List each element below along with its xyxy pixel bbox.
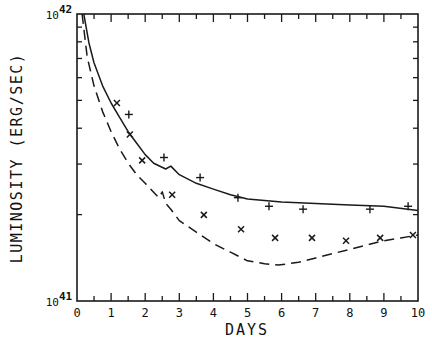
cross-marker — [377, 235, 383, 241]
cross-marker — [343, 238, 349, 244]
y-tick-label-exponent: 41 — [59, 290, 73, 303]
x-tick-label: 8 — [346, 306, 353, 320]
y-tick-label-base: 10 — [46, 9, 59, 22]
solid-model-curve — [84, 14, 418, 211]
x-tick-label: 7 — [312, 306, 319, 320]
model-curves — [82, 14, 418, 265]
cross-marker — [127, 132, 133, 138]
y-tick-label-exponent: 42 — [59, 3, 72, 16]
plus-marker — [265, 202, 273, 210]
x-tick-labels: 012345678910 — [73, 306, 425, 320]
dashed-model-curve — [82, 14, 418, 265]
x-tick-label: 5 — [244, 306, 251, 320]
cross-marker — [272, 235, 278, 241]
cross-marker — [114, 100, 120, 106]
cross-marker — [309, 235, 315, 241]
y-tick-labels: 10411042 — [46, 3, 73, 309]
plus-marker — [125, 110, 133, 118]
axis-ticks — [77, 14, 418, 301]
cross-marker — [238, 226, 244, 232]
y-tick-label-base: 10 — [46, 296, 59, 309]
luminosity-chart: 012345678910 10411042 DAYS LUMINOSITY (E… — [0, 0, 432, 342]
plus-marker — [196, 174, 204, 182]
cross-marker — [139, 157, 145, 163]
x-tick-label: 0 — [73, 306, 80, 320]
y-axis-label: LUMINOSITY (ERG/SEC) — [8, 53, 26, 264]
x-tick-label: 9 — [380, 306, 387, 320]
plus-marker — [234, 194, 242, 202]
x-tick-label: 1 — [107, 306, 114, 320]
x-tick-label: 3 — [176, 306, 183, 320]
cross-marker — [201, 212, 207, 218]
x-axis-label: DAYS — [225, 321, 269, 339]
x-tick-label: 10 — [411, 306, 425, 320]
cross-marker — [169, 192, 175, 198]
x-tick-label: 4 — [210, 306, 217, 320]
data-markers — [114, 100, 416, 244]
plus-marker — [299, 205, 307, 213]
cross-marker — [410, 232, 416, 238]
plus-marker — [160, 154, 168, 162]
x-tick-label: 2 — [142, 306, 149, 320]
plot-frame — [77, 14, 418, 301]
x-tick-label: 6 — [278, 306, 285, 320]
plot-border — [77, 14, 418, 301]
